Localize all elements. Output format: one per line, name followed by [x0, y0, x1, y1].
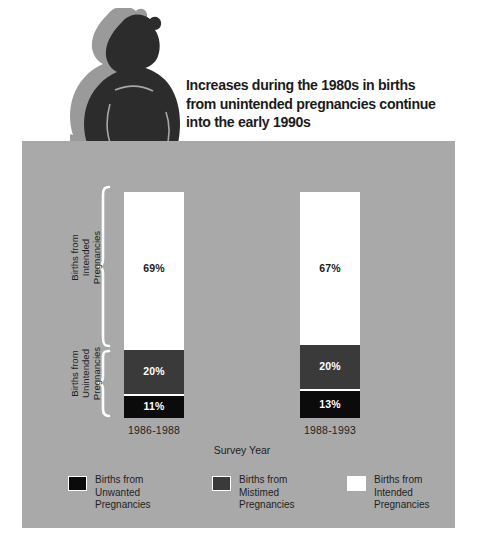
x-axis-title: Survey Year	[182, 444, 302, 456]
group-label-intended: Births from Intended Pregnancies	[69, 217, 102, 299]
x-tick-label-1: 1986-1988	[99, 424, 209, 436]
legend-label-mistimed: Births from Mistimed Pregnancies	[239, 474, 295, 512]
chart-panel: Births from Intended Pregnancies Births …	[22, 141, 455, 528]
group-label-intended-line-2: Intended	[80, 217, 91, 299]
bar-1988-1993: 67% 20% 13%	[300, 192, 360, 418]
bar-1986-1988: 69% 20% 11%	[124, 192, 184, 418]
bar-label-unwanted-1: 11%	[124, 400, 184, 412]
bar-label-unwanted-2: 13%	[300, 398, 360, 410]
group-label-unintended: Births from Unintended Pregnancies	[69, 329, 102, 419]
legend-label-mistimed-line-2: Mistimed	[239, 487, 295, 500]
legend-label-intended-line-1: Births from	[374, 474, 430, 487]
legend-label-unwanted: Births from Unwanted Pregnancies	[95, 474, 151, 512]
bar-label-mistimed-1: 20%	[124, 365, 184, 377]
group-label-unintended-line-1: Births from	[69, 329, 80, 419]
legend-label-mistimed-line-3: Pregnancies	[239, 499, 295, 512]
chart-page: Increases during the 1980s in births fro…	[0, 0, 482, 548]
group-label-intended-line-1: Births from	[69, 217, 80, 299]
legend-label-intended: Births from Intended Pregnancies	[374, 474, 430, 512]
x-tick-label-2: 1988-1993	[275, 424, 385, 436]
chart-title-line-2: from unintended pregnancies continue	[186, 95, 437, 114]
legend-label-intended-line-3: Pregnancies	[374, 499, 430, 512]
legend-swatch-unwanted-icon	[68, 476, 87, 491]
bar-label-intended-1: 69%	[124, 262, 184, 274]
bar-label-intended-2: 67%	[300, 262, 360, 274]
legend-label-intended-line-2: Intended	[374, 487, 430, 500]
legend-label-unwanted-line-1: Births from	[95, 474, 151, 487]
legend-swatch-mistimed-icon	[212, 476, 231, 491]
chart-title-line-3: into the early 1990s	[186, 113, 437, 132]
legend-label-mistimed-line-1: Births from	[239, 474, 295, 487]
legend-label-unwanted-line-2: Unwanted	[95, 487, 151, 500]
group-label-unintended-line-2: Unintended	[80, 329, 91, 419]
group-label-unintended-line-3: Pregnancies	[91, 329, 102, 419]
bar-label-mistimed-2: 20%	[300, 360, 360, 372]
legend-label-unwanted-line-3: Pregnancies	[95, 499, 151, 512]
legend-swatch-intended-icon	[347, 476, 366, 491]
chart-title-line-1: Increases during the 1980s in births	[186, 76, 437, 95]
chart-title: Increases during the 1980s in births fro…	[186, 76, 437, 132]
group-label-intended-line-3: Pregnancies	[91, 217, 102, 299]
